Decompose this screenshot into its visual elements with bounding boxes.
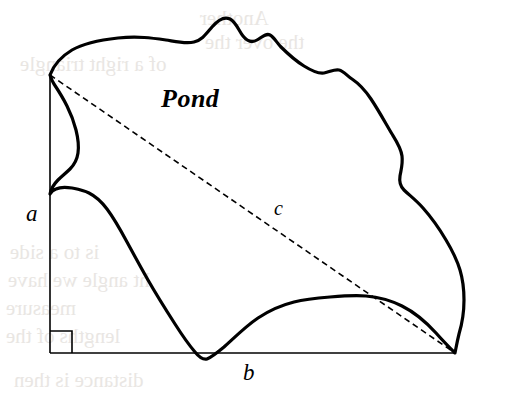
label-leg-a: a [26, 202, 38, 225]
right-angle-marker-icon [50, 331, 72, 353]
figure-canvas [0, 0, 508, 402]
label-pond-region: Pond [161, 86, 219, 112]
label-leg-b: b [243, 361, 255, 384]
pond-outline-shape [50, 18, 464, 359]
label-hypotenuse-c: c [274, 198, 283, 218]
pond-geometry-figure: Another the over the of a right triangle… [0, 0, 508, 402]
